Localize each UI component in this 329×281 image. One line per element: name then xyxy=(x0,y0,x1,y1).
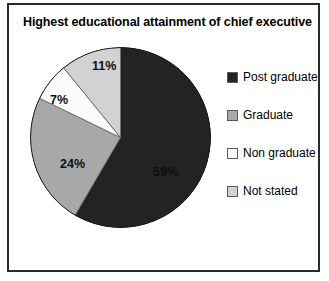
chart-screenshot: Highest educational attainment of chief … xyxy=(0,0,329,281)
legend-item-graduate: Graduate xyxy=(227,109,327,122)
pie-chart-area: 59% 24% 7% 11% xyxy=(30,47,220,237)
legend-item-not-stated: Not stated xyxy=(227,185,327,198)
chart-title: Highest educational attainment of chief … xyxy=(23,15,312,29)
legend-item-non-graduate: Non graduate xyxy=(227,147,327,160)
pie-label-graduate: 24% xyxy=(60,157,85,171)
legend-swatch-icon xyxy=(227,110,238,121)
pie-label-non-graduate: 7% xyxy=(50,93,68,107)
legend-swatch-icon xyxy=(227,186,238,197)
legend-swatch-icon xyxy=(227,72,238,83)
chart-legend: Post graduate Graduate Non graduate Not … xyxy=(227,71,327,223)
legend-item-post-graduate: Post graduate xyxy=(227,71,327,84)
pie-label-not-stated: 11% xyxy=(92,59,116,73)
legend-label-not-stated: Not stated xyxy=(243,185,298,198)
legend-label-non-graduate: Non graduate xyxy=(243,147,316,160)
pie-graphic xyxy=(30,47,211,228)
pie-label-post-graduate: 59% xyxy=(153,165,178,179)
legend-swatch-icon xyxy=(227,148,238,159)
legend-label-graduate: Graduate xyxy=(243,109,293,122)
chart-card: Highest educational attainment of chief … xyxy=(7,3,320,272)
legend-label-post-graduate: Post graduate xyxy=(243,71,318,84)
